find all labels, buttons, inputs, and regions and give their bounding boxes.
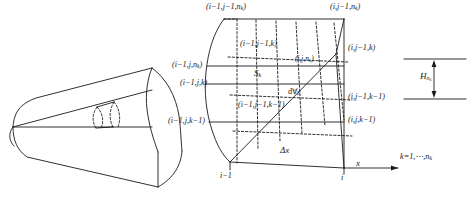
nozzle-lower-edge [13,127,158,187]
figure-canvas [0,0,470,199]
label-node-right-lower: (i,j−1,k−1) [348,93,385,101]
x-axis-arrowhead [391,166,398,171]
label-axis-x: x [356,159,360,168]
cell-left-curved-edge [205,19,230,162]
nozzle-exit-outer-arc [152,68,182,151]
label-height-H: Hnk [420,72,431,82]
nozzle-upper-edge [13,68,152,127]
nozzle-ring-slice-2-front [110,102,114,127]
nozzle-exit-inner-arc [146,68,158,152]
cell-dashed-rib-4 [296,22,302,133]
label-node-top-right: (i,j−1,nk) [330,3,360,12]
cell-dashed-rib-5 [316,22,325,126]
height-annotation [404,59,466,99]
label-node-top-left: (i−1,j−1,nk) [206,3,246,12]
hexahedral-control-volume [205,19,352,168]
nozzle-ring-slice-1-front [93,107,97,128]
nozzle-mid-edge [13,90,152,127]
cell-dashed-band-bottom [233,131,352,136]
label-tick-i: i [341,174,343,182]
nozzle-ring-slice-2-back [114,102,120,127]
label-node-left-mid: (i−1,j,k) [180,79,207,87]
label-face-area: Sk [254,69,261,78]
label-delta-x: Δx [280,146,289,155]
height-arrow-head-down [432,91,437,98]
cell-dashed-rib-6 [334,23,344,120]
height-arrow-head-up [432,60,437,67]
label-tick-i-minus-1: i−1 [220,172,232,180]
label-volume-element: d∀E [288,88,301,97]
label-node-inner-bottom: (i−1,j−1,k−1) [238,101,285,109]
x-axis-group [230,162,398,174]
nozzle-skirt-curve [158,151,182,187]
label-node-left-lower: (i−1,j,k−1) [168,117,205,125]
cell-front-top-slant [336,19,344,54]
label-node-right-bottom: (i,j,k−1) [348,116,375,124]
label-k-range: k=1,⋯,nk [400,153,432,162]
label-node-left-upper: (i−1,j,nk) [172,61,202,70]
cell-bottom-edge [230,162,344,168]
label-node-inner-mid: (i,j,nk) [295,55,314,63]
conical-nozzle-body [10,68,182,187]
nozzle-ring-slice-1-back [97,107,103,128]
label-node-right-upper: (i,j−1,k) [348,44,375,52]
label-node-inner-top: (i−1,j−1,k) [240,40,277,48]
